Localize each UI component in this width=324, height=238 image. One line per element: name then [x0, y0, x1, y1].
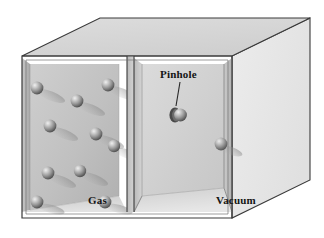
molecule [215, 138, 228, 151]
diagram-canvas [0, 0, 324, 238]
gas-label: Gas [88, 194, 107, 206]
molecule [31, 196, 44, 209]
effusion-diagram-figure: Pinhole Gas Vacuum [0, 0, 324, 238]
vacuum-label: Vacuum [216, 194, 256, 206]
molecule [74, 165, 86, 177]
molecule [102, 79, 115, 92]
molecule [108, 140, 120, 152]
molecule [31, 82, 44, 95]
pinhole-label: Pinhole [160, 68, 197, 80]
divider-wall [127, 56, 134, 212]
vacuum-chamber [134, 58, 232, 212]
molecule [71, 95, 84, 108]
molecule [44, 120, 57, 133]
molecule [90, 128, 103, 141]
molecule [42, 167, 55, 180]
